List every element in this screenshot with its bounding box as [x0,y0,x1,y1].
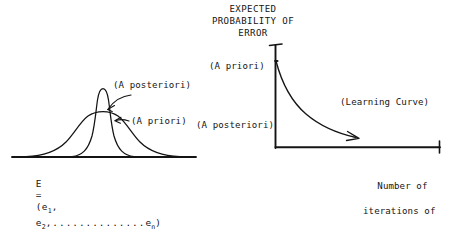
formula-comma: , [52,201,58,212]
label-a-posteriori-left: (A posteriori) [113,80,191,92]
x-axis-caption-line-2: iterations of [355,205,441,217]
formula-close-paren: ) [155,217,161,228]
delphi-error-figure: (A posteriori) (A priori) E = (e1, e2,..… [0,0,457,238]
label-a-priori-left: (A priori) [131,116,187,128]
right-chart-x-axis-caption: Number of iterations of Delphi process a… [355,168,441,238]
leader-arrowhead-posteriori-left [108,106,115,112]
formula-lhs: E [36,178,42,189]
right-chart-y-axis-tick [270,44,283,46]
label-learning-curve: (Learning Curve) [340,97,429,109]
right-chart-title: EXPECTED PROBABILITY OF ERROR [199,3,307,40]
label-a-posteriori-right: (A posteriori) [196,120,274,132]
formula-equals: = [36,189,42,200]
x-axis-caption-line-1: Number of [377,181,427,191]
formula-expression: E = (e1, e2,..............en) [12,166,161,238]
label-a-priori-right: (A priori) [209,61,265,73]
formula-ellipsis: ,.............. [46,217,146,228]
